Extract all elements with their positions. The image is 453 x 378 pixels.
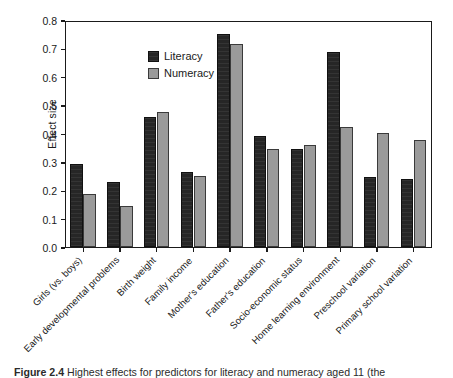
x-tick-mark <box>193 248 194 252</box>
x-tick-mark <box>303 248 304 252</box>
literacy-swatch-icon <box>148 51 159 62</box>
x-tick-mark <box>266 248 267 252</box>
bar-numeracy-6 <box>304 145 316 247</box>
x-tick-mark <box>83 248 84 252</box>
bar-literacy-6 <box>291 149 303 247</box>
bar-numeracy-5 <box>267 149 279 247</box>
bar-numeracy-4 <box>230 44 242 247</box>
bar-literacy-8 <box>364 177 376 247</box>
legend-label-numeracy: Numeracy <box>164 68 214 79</box>
bar-literacy-7 <box>327 52 339 247</box>
bar-literacy-5 <box>254 136 266 247</box>
y-tick-label: 0.5 <box>23 101 57 112</box>
plot-area: Literacy Numeracy <box>65 21 432 248</box>
y-tick-label: 0.6 <box>23 73 57 84</box>
y-tick-label: 0.8 <box>23 16 57 27</box>
bar-numeracy-8 <box>377 133 389 247</box>
x-tick-mark <box>156 248 157 252</box>
y-tick-label: 0.4 <box>23 130 57 141</box>
bar-numeracy-9 <box>414 140 426 247</box>
caption-number: Figure 2.4 <box>14 366 64 378</box>
y-tick-label: 0.2 <box>23 186 57 197</box>
numeracy-swatch-icon <box>148 68 159 79</box>
figure-bar-chart: Effect size 0.00.10.20.30.40.50.60.70.8 … <box>0 0 453 378</box>
bar-numeracy-7 <box>340 127 352 247</box>
y-tick-label: 0.1 <box>23 215 57 226</box>
bar-literacy-3 <box>181 172 193 247</box>
y-tick-label: 0.3 <box>23 158 57 169</box>
bar-literacy-4 <box>217 34 229 247</box>
bar-literacy-1 <box>107 182 119 247</box>
x-tick-mark <box>376 248 377 252</box>
bar-numeracy-1 <box>120 206 132 247</box>
y-tick-label: 0.0 <box>23 243 57 254</box>
legend-label-literacy: Literacy <box>164 51 203 62</box>
bar-numeracy-0 <box>83 194 95 247</box>
x-axis-label-9: Primary school variation <box>334 255 414 335</box>
y-tick-label: 0.7 <box>23 44 57 55</box>
bar-numeracy-3 <box>194 176 206 247</box>
x-tick-mark <box>119 248 120 252</box>
x-tick-mark <box>229 248 230 252</box>
caption-text: Highest effects for predictors for liter… <box>67 366 385 378</box>
x-tick-mark <box>413 248 414 252</box>
bar-literacy-9 <box>401 179 413 247</box>
figure-caption: Figure 2.4 Highest effects for predictor… <box>14 366 444 378</box>
bar-literacy-0 <box>70 164 82 247</box>
bar-numeracy-2 <box>157 112 169 247</box>
x-tick-mark <box>340 248 341 252</box>
bar-literacy-2 <box>144 117 156 247</box>
